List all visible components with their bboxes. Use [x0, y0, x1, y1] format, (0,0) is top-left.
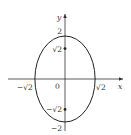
y-tick-label-3: −2: [51, 124, 62, 133]
chart: −√2√22√2−√2−2 x y 0: [0, 0, 131, 135]
y-tick-label-1: √2: [52, 45, 62, 54]
x-tick-label-1: √2: [96, 83, 106, 92]
y-tick-label-2: −√2: [46, 105, 62, 114]
marked-point-1: [64, 108, 67, 111]
marked-point-0: [64, 47, 67, 50]
x-tick-label-0: −√2: [17, 83, 33, 92]
origin-label: 0: [55, 82, 60, 91]
x-axis-label: x: [118, 82, 123, 91]
y-tick-label-0: 2: [57, 27, 62, 36]
y-axis-label: y: [56, 13, 62, 22]
